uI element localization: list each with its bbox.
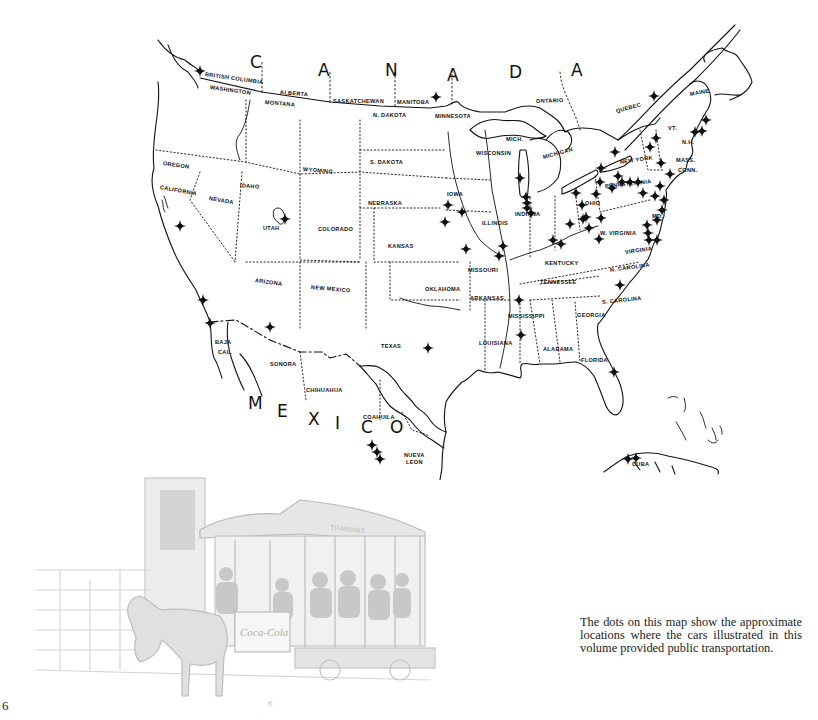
country-letter: E bbox=[277, 401, 288, 421]
country-letter: A bbox=[318, 60, 330, 80]
location-marker-icon bbox=[696, 125, 708, 137]
baja-coast bbox=[227, 322, 262, 396]
province-lines bbox=[262, 60, 580, 130]
location-marker-icon bbox=[595, 212, 607, 224]
region-label: CONN. bbox=[678, 167, 698, 173]
region-label: LEON bbox=[406, 459, 423, 465]
location-marker-icon bbox=[648, 90, 660, 102]
border-us-canada bbox=[200, 78, 660, 140]
region-label: ALABAMA bbox=[543, 346, 573, 352]
map-caption: The dots on this map show the approximat… bbox=[580, 616, 802, 655]
region-label: COAHUILA bbox=[363, 414, 395, 420]
region-label: N. DAKOTA bbox=[373, 112, 406, 118]
region-label: COLORADO bbox=[318, 226, 353, 232]
location-marker-icon bbox=[590, 188, 602, 200]
region-label: N.H. bbox=[682, 139, 694, 145]
location-marker-icon bbox=[456, 206, 468, 218]
nova-scotia-coast bbox=[704, 48, 752, 100]
location-marker-icon bbox=[460, 243, 472, 255]
location-marker-icon bbox=[515, 329, 527, 341]
country-letter: O bbox=[390, 417, 403, 437]
location-marker-icon bbox=[570, 187, 582, 199]
country-letter: C bbox=[250, 52, 262, 72]
coast-pacific bbox=[152, 82, 222, 378]
region-label: CHIHUAHUA bbox=[306, 387, 343, 393]
location-marker-icon bbox=[650, 132, 662, 144]
location-marker-icon bbox=[654, 180, 666, 192]
region-label: MISSOURI bbox=[468, 267, 498, 273]
region-label: MICH. bbox=[506, 136, 523, 142]
region-label: GEORGIA bbox=[577, 312, 606, 318]
location-marker-icon bbox=[608, 366, 620, 378]
region-label: MANITOBA bbox=[397, 99, 429, 105]
lake-huron-michigan-lp bbox=[530, 130, 572, 192]
location-marker-icon bbox=[374, 453, 386, 465]
region-label: W. VIRGINIA bbox=[600, 230, 636, 236]
location-marker-icon bbox=[279, 213, 291, 225]
region-label: VT. bbox=[668, 125, 677, 131]
region-label: NEBRASKA bbox=[368, 200, 402, 206]
location-marker-icon bbox=[493, 250, 505, 262]
location-marker-icon bbox=[614, 279, 626, 291]
region-label: TENNESSEE bbox=[540, 279, 577, 285]
streetcar-platform bbox=[295, 648, 435, 668]
location-marker-icon bbox=[576, 199, 588, 211]
red-river bbox=[400, 298, 460, 310]
location-marker-icon bbox=[264, 321, 276, 333]
region-label: MINNESOTA bbox=[435, 113, 471, 119]
region-label: TEXAS bbox=[381, 343, 401, 349]
region-label: IOWA bbox=[447, 191, 463, 197]
region-label: ONTARIO bbox=[536, 97, 564, 104]
location-marker-icon bbox=[664, 168, 676, 180]
region-label: LOUISIANA bbox=[479, 340, 512, 346]
horse bbox=[128, 596, 228, 696]
building-door bbox=[160, 490, 195, 550]
location-marker-icon bbox=[594, 176, 606, 188]
region-label: NUEVA bbox=[404, 452, 425, 458]
border-us-mexico bbox=[210, 320, 360, 366]
region-label: MASS. bbox=[676, 157, 695, 163]
region-label: KANSAS bbox=[388, 243, 413, 249]
location-marker-icon bbox=[595, 162, 607, 174]
location-marker-icon bbox=[651, 234, 663, 246]
location-marker-icon bbox=[204, 317, 216, 329]
st-lawrence bbox=[618, 25, 740, 150]
location-marker-icon bbox=[514, 172, 526, 184]
page-number: 6 bbox=[2, 698, 9, 714]
location-marker-icon bbox=[555, 238, 567, 250]
state-borders bbox=[156, 100, 664, 436]
location-marker-icon bbox=[513, 294, 525, 306]
location-marker-icon bbox=[442, 199, 454, 211]
country-letter: D bbox=[509, 62, 522, 82]
coca-cola-ad-text: Coca-Cola bbox=[240, 626, 289, 638]
region-label: S. DAKOTA bbox=[370, 159, 403, 165]
north-america-map bbox=[0, 0, 818, 480]
bahamas bbox=[668, 397, 722, 444]
region-label: BAJA bbox=[215, 339, 231, 345]
location-marker-icon bbox=[439, 216, 451, 228]
region-label: KENTUCKY bbox=[545, 260, 578, 266]
location-marker-icon bbox=[197, 294, 209, 306]
region-label: UTAH bbox=[263, 225, 279, 231]
region-label: FLORIDA bbox=[581, 357, 608, 363]
region-label: CAL. bbox=[218, 349, 232, 355]
location-marker-icon bbox=[430, 91, 442, 103]
location-marker-icon bbox=[637, 187, 649, 199]
region-label: SASKATCHEWAN bbox=[333, 98, 384, 104]
country-letter: A bbox=[571, 60, 583, 80]
region-label: OKLAHOMA bbox=[425, 286, 460, 292]
book-page: CANADAMEXICO BRITISH COLUMBIAWASHINGTONA… bbox=[0, 0, 818, 720]
horse-streetcar-illustration: TRANVIAS Coca-Cola K bbox=[30, 470, 450, 710]
location-marker-icon bbox=[422, 342, 434, 354]
region-label: MISSISSIPPI bbox=[508, 313, 545, 319]
country-letter: N bbox=[385, 60, 398, 80]
location-marker-icon bbox=[194, 65, 206, 77]
sf-bay bbox=[162, 196, 168, 212]
snake-river bbox=[236, 100, 250, 160]
country-letter: X bbox=[308, 409, 320, 429]
location-marker-icon bbox=[609, 146, 621, 158]
location-marker-icon bbox=[174, 220, 186, 232]
region-label: ILLINOIS bbox=[482, 220, 508, 226]
artist-mark: K bbox=[268, 700, 273, 707]
region-label: WISCONSIN bbox=[476, 150, 511, 156]
